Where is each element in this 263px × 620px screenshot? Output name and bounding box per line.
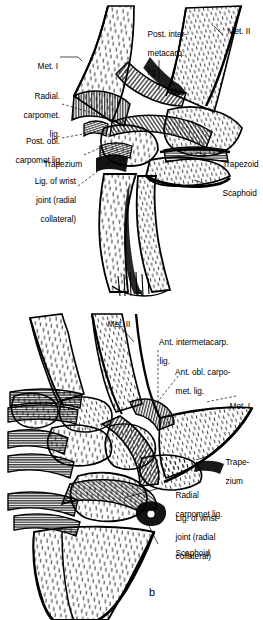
label-scaphoid: Scaphoid [209,179,263,208]
label-trapezoid: Trapezoid [209,150,263,179]
label-scaphoid: Scaphoid [162,539,232,568]
label-met-1: Met. I [12,52,58,81]
label-post-intermetacarp-lig: Post. inter- metacarp. lig. [134,20,192,87]
label-met-1: Met. I [216,392,262,421]
panel-b: Met. II Ant. intermetacarp. lig. Ant. ob… [0,308,263,620]
label-lig-of-wrist-joint: Lig. of wrist joint (radial collateral) [2,167,76,234]
label-met-2: Met. II [214,17,260,46]
panel-letter-b: b [149,586,155,598]
panel-letter-a: a [137,286,143,298]
anatomical-figure: Met. I Radial. carpomet. lig. Post. obl.… [0,0,263,620]
label-met-2: Met. II [94,310,144,339]
panel-a: Met. I Radial. carpomet. lig. Post. obl.… [0,0,263,305]
